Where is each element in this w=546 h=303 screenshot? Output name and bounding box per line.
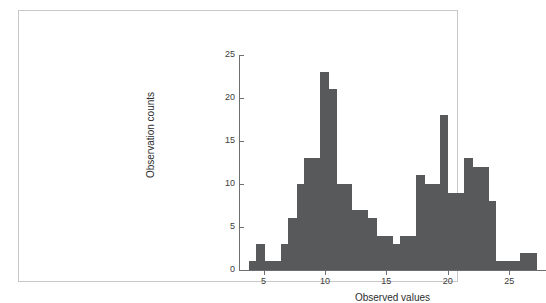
y-tick-label-wrap: 15 [213, 136, 235, 145]
y-tick-label: 0 [213, 265, 235, 274]
x-tick-mark [325, 270, 326, 275]
y-tick-mark [239, 270, 244, 271]
x-tick-label: 10 [313, 276, 337, 287]
x-tick-mark [264, 270, 265, 275]
plot-area: 0510152025 510152025 Observation counts … [129, 33, 434, 248]
x-tick-mark [509, 270, 510, 275]
y-tick-label: 20 [213, 93, 235, 102]
y-tick-label-wrap: 20 [213, 93, 235, 102]
x-axis-line [239, 270, 546, 271]
x-tick-label-wrap: 20 [436, 276, 460, 287]
figure-frame: 0510152025 510152025 Observation counts … [18, 10, 458, 282]
y-tick-label: 15 [213, 136, 235, 145]
x-tick-label: 5 [252, 276, 276, 287]
x-tick-label-wrap: 15 [374, 276, 398, 287]
x-axis-label: Observed values [239, 292, 546, 303]
y-axis-label: Observation counts [144, 65, 158, 205]
x-tick-label-wrap: 25 [497, 276, 521, 287]
x-tick-label: 25 [497, 276, 521, 287]
x-tick-label: 15 [374, 276, 398, 287]
histogram-bars [239, 55, 546, 270]
histogram-bar [488, 201, 496, 270]
x-tick-label: 20 [436, 276, 460, 287]
histogram-bar [528, 253, 537, 270]
y-tick-label-wrap: 0 [213, 265, 235, 274]
x-tick-mark [386, 270, 387, 275]
y-tick-label: 5 [213, 222, 235, 231]
x-tick-label-wrap: 5 [252, 276, 276, 287]
y-tick-label-wrap: 5 [213, 222, 235, 231]
y-tick-label-wrap: 25 [213, 50, 235, 59]
y-tick-label-wrap: 10 [213, 179, 235, 188]
x-tick-label-wrap: 10 [313, 276, 337, 287]
x-tick-mark [448, 270, 449, 275]
y-axis-label-wrap: Observation counts [144, 65, 158, 205]
y-tick-label: 10 [213, 179, 235, 188]
y-tick-label: 25 [213, 50, 235, 59]
